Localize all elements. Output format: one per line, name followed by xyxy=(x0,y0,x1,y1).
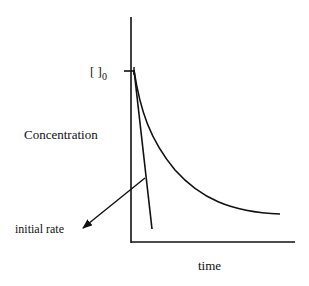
reaction-diagram: [ ]0 Concentration initial rate time xyxy=(0,0,309,286)
initial-concentration-label: [ ]0 xyxy=(90,64,107,82)
x-axis-label: time xyxy=(198,258,221,273)
concentration-curve xyxy=(134,70,280,214)
initial-rate-label: initial rate xyxy=(15,222,64,236)
annotation-arrow xyxy=(83,178,145,228)
y-axis-label: Concentration xyxy=(24,127,98,142)
initial-rate-tangent xyxy=(134,70,152,229)
